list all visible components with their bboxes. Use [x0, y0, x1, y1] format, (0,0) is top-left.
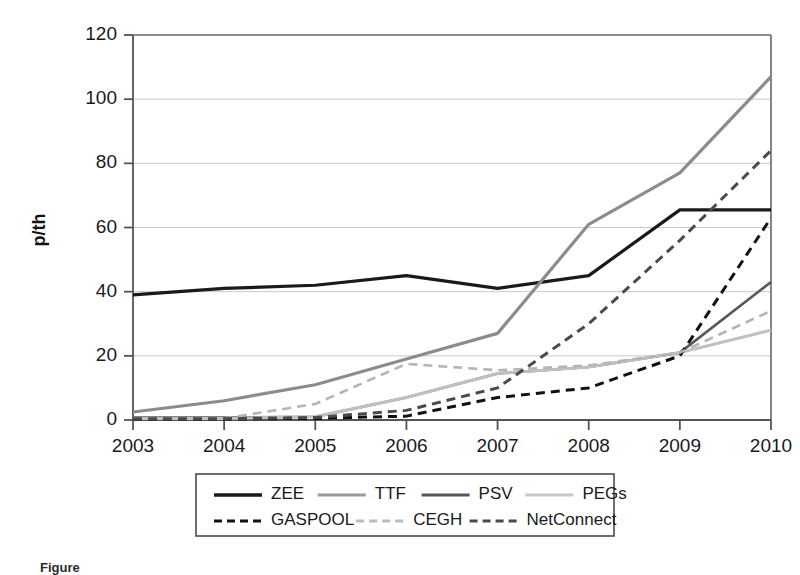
y-tick-label: 60: [96, 216, 117, 237]
y-tick-label: 20: [96, 344, 117, 365]
x-tick-label: 2009: [659, 435, 701, 456]
legend-label-cegh: CEGH: [413, 510, 462, 529]
y-tick-label: 40: [96, 280, 117, 301]
y-tick-label: 100: [85, 87, 117, 108]
legend-label-psv: PSV: [479, 484, 514, 503]
x-tick-label: 2003: [112, 435, 154, 456]
x-tick-label: 2007: [476, 435, 518, 456]
x-tick-label: 2005: [294, 435, 336, 456]
y-tick-label: 0: [106, 408, 117, 429]
x-tick-label: 2010: [750, 435, 792, 456]
figure-caption: Figure: [40, 560, 80, 575]
legend-label-zee: ZEE: [271, 484, 304, 503]
legend-label-gaspool: GASPOOL: [271, 510, 354, 529]
x-axis-ticks: 20032004200520062007200820092010: [112, 420, 792, 456]
x-tick-label: 2006: [385, 435, 427, 456]
y-tick-label: 80: [96, 151, 117, 172]
x-tick-label: 2004: [203, 435, 246, 456]
legend-label-pegs: PEGs: [582, 484, 626, 503]
figure-container: 020406080100120 200320042005200620072008…: [0, 0, 800, 575]
line-chart: 020406080100120 200320042005200620072008…: [0, 0, 800, 575]
legend-label-netconnect: NetConnect: [527, 510, 617, 529]
y-axis-ticks: 020406080100120: [85, 23, 133, 429]
legend-label-ttf: TTF: [375, 484, 406, 503]
x-tick-label: 2008: [568, 435, 610, 456]
y-tick-label: 120: [85, 23, 117, 44]
y-axis-title: p/th: [29, 214, 49, 247]
